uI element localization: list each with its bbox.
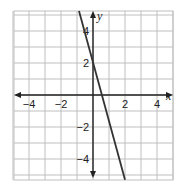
x-axis-left-arrow-icon [14, 92, 21, 98]
y-axis-label: y [96, 9, 103, 23]
y-tick-label: 2 [83, 57, 89, 69]
y-tick-label: −2 [76, 121, 89, 133]
y-tick-label: −4 [76, 153, 89, 165]
axes [14, 11, 173, 178]
x-tick-label: −4 [23, 98, 36, 110]
x-tick-label: −2 [55, 98, 68, 110]
x-tick-label: 4 [154, 98, 160, 110]
x-tick-label: 2 [122, 98, 128, 110]
coordinate-plane: −4−22442−2−4 x y [0, 0, 180, 185]
x-axis-label: x [165, 89, 172, 103]
